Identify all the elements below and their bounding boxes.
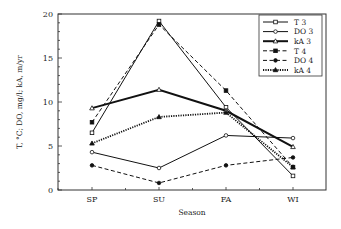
filled-circle-marker-icon [157, 181, 161, 185]
legend-label: DO 3 [294, 27, 314, 36]
open-square-marker-icon [274, 20, 278, 24]
series-ka4 [90, 110, 296, 169]
open-circle-marker-icon [90, 150, 94, 154]
series-do4 [90, 156, 295, 185]
filled-circle-marker-icon [224, 164, 228, 168]
filled-square-marker-icon [224, 89, 228, 93]
line-chart: 05101520 SPSUFAWI T, °C; DO, mg/l; kA, m… [0, 0, 341, 229]
legend-label: T 4 [294, 47, 306, 56]
filled-circle-marker-icon [274, 59, 278, 63]
open-circle-marker-icon [157, 166, 161, 170]
x-tick-label: WI [287, 195, 298, 204]
series-line [92, 90, 293, 147]
y-axis-title: T, °C; DO, mg/l; kA, m/yr [15, 55, 24, 149]
x-tick-label: SU [153, 195, 165, 204]
legend-label: kA 3 [294, 37, 311, 46]
filled-square-marker-icon [157, 23, 161, 27]
open-square-marker-icon [90, 131, 94, 135]
series-line [92, 135, 293, 168]
filled-square-marker-icon [274, 49, 278, 53]
open-circle-marker-icon [291, 136, 295, 140]
legend-label: T 3 [294, 18, 306, 27]
filled-triangle-marker-icon [157, 115, 162, 119]
legend-box [259, 15, 322, 76]
x-axis-title: Season [178, 208, 205, 217]
filled-square-marker-icon [90, 120, 94, 124]
open-square-marker-icon [157, 19, 161, 23]
series-line [92, 157, 293, 183]
y-tick-label: 0 [48, 186, 53, 195]
filled-circle-marker-icon [90, 164, 94, 168]
open-circle-marker-icon [224, 134, 228, 138]
filled-triangle-marker-icon [90, 141, 95, 145]
open-circle-marker-icon [274, 30, 278, 34]
y-tick-label: 15 [43, 54, 53, 63]
series-do3 [90, 134, 295, 170]
x-tick-label: SP [87, 195, 98, 204]
legend-label: DO 4 [294, 56, 314, 65]
x-tick-label: FA [221, 195, 232, 204]
y-tick-label: 20 [43, 10, 53, 19]
legend: T 3DO 3kA 3T 4DO 4kA 4 [259, 15, 322, 76]
open-square-marker-icon [291, 174, 295, 178]
filled-circle-marker-icon [291, 156, 295, 160]
y-tick-label: 5 [48, 142, 53, 151]
legend-label: kA 4 [294, 66, 311, 75]
y-tick-label: 10 [43, 98, 53, 107]
y-axis: 05101520 [43, 10, 62, 195]
series-ka3 [90, 87, 296, 148]
